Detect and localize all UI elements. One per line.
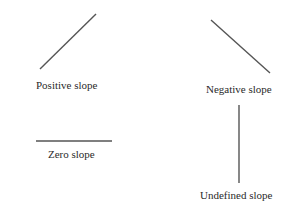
- positive-slope-label: Positive slope: [36, 79, 97, 91]
- slope-diagram: Positive slope Negative slope Zero slope…: [0, 0, 296, 208]
- positive-slope-line: [40, 14, 96, 69]
- undefined-slope-label: Undefined slope: [200, 189, 272, 201]
- slope-lines: [0, 0, 296, 208]
- negative-slope-label: Negative slope: [206, 83, 272, 95]
- zero-slope-label: Zero slope: [48, 148, 95, 160]
- negative-slope-line: [211, 20, 270, 73]
